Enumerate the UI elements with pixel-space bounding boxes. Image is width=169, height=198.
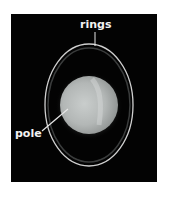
planet-disk xyxy=(60,76,118,134)
rings-label: rings xyxy=(80,19,111,31)
pole-label: pole xyxy=(15,128,42,140)
